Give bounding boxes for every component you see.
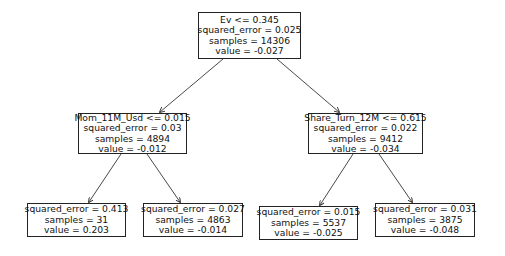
node-value: value = 0.203	[44, 225, 109, 235]
node-value: value = -0.014	[159, 225, 227, 235]
tree-node-root: Ev <= 0.345 squared_error = 0.025 sample…	[198, 12, 301, 59]
node-value: value = -0.048	[391, 225, 459, 235]
node-squared-error: squared_error = 0.025	[198, 25, 302, 35]
tree-leaf-1: squared_error = 0.413 samples = 31 value…	[27, 203, 126, 237]
tree-leaf-4: squared_error = 0.031 samples = 3875 val…	[375, 203, 475, 237]
node-value: value = -0.012	[98, 144, 166, 154]
edge-right-leaf4	[379, 154, 412, 202]
edge-root-left	[160, 59, 223, 112]
tree-leaf-3: squared_error = 0.015 samples = 5537 val…	[259, 206, 358, 240]
edge-left-leaf1	[89, 154, 121, 202]
edge-right-leaf3	[320, 154, 353, 205]
tree-node-left: Mom_11M_Usd <= 0.015 squared_error = 0.0…	[78, 113, 187, 154]
decision-tree-diagram: Ev <= 0.345 squared_error = 0.025 sample…	[0, 0, 505, 256]
node-value: value = -0.027	[215, 46, 283, 56]
tree-leaf-2: squared_error = 0.027 samples = 4863 val…	[143, 203, 243, 237]
edge-left-leaf2	[147, 154, 180, 202]
node-value: value = -0.025	[274, 228, 342, 238]
edge-root-right	[277, 59, 339, 112]
node-squared-error: squared_error = 0.03	[84, 123, 182, 133]
tree-node-right: Share_Turn_12M <= 0.615 squared_error = …	[308, 113, 423, 154]
node-value: value = -0.034	[331, 144, 399, 154]
node-squared-error: squared_error = 0.022	[314, 123, 418, 133]
